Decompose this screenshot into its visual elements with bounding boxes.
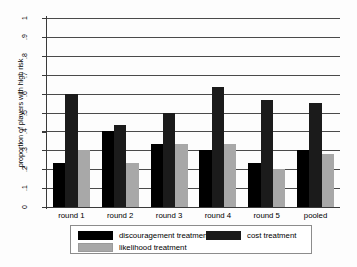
- bar-group: [53, 18, 90, 207]
- legend-swatch-icon: [78, 231, 113, 240]
- chart-legend: discouragement treatmentcost treatmentli…: [70, 225, 312, 254]
- gridline: [47, 188, 340, 189]
- x-tick-label: round 3: [145, 210, 194, 221]
- bar-group: [151, 18, 188, 207]
- gridline: [47, 94, 340, 95]
- legend-label: discouragement treatment: [119, 230, 210, 241]
- chart-figure: proportion of players with high risk 0.1…: [0, 0, 357, 267]
- bar-group: [102, 18, 139, 207]
- y-tick-label: .4: [21, 121, 29, 141]
- bar: [261, 100, 273, 207]
- legend-label: likelihood treatment: [119, 242, 187, 253]
- legend-swatch-icon: [78, 243, 113, 252]
- bar: [114, 125, 126, 207]
- bar-group: [248, 18, 285, 207]
- gridline: [47, 169, 340, 170]
- bar: [273, 169, 285, 207]
- bar: [175, 144, 187, 207]
- gridline: [47, 37, 340, 38]
- y-tick-label: .7: [21, 65, 29, 85]
- y-tick-label: .9: [21, 27, 29, 47]
- y-tick-label: .1: [21, 178, 29, 198]
- bar: [102, 131, 114, 207]
- x-tick-label: round 1: [47, 210, 96, 221]
- gridline: [47, 56, 340, 57]
- x-tick-label: round 2: [96, 210, 145, 221]
- gridline: [47, 75, 340, 76]
- bar: [65, 94, 77, 207]
- bar-group: [297, 18, 334, 207]
- y-tick-mark: [42, 37, 47, 38]
- x-tick-label: round 5: [242, 210, 291, 221]
- x-tick-label: pooled: [291, 210, 340, 221]
- y-tick-label: 1: [21, 8, 29, 28]
- bar-group: [199, 18, 236, 207]
- y-tick-mark: [42, 56, 47, 57]
- y-tick-mark: [42, 75, 47, 76]
- y-tick-label: .3: [21, 140, 29, 160]
- bar: [248, 163, 260, 207]
- plot-area: [47, 18, 340, 207]
- gridline: [47, 131, 340, 132]
- bar: [322, 154, 334, 207]
- y-tick-mark: [42, 113, 47, 114]
- x-axis-line: [46, 207, 340, 208]
- y-tick-label: .6: [21, 84, 29, 104]
- y-tick-mark: [42, 150, 47, 151]
- y-tick-label: 0: [21, 197, 29, 217]
- y-tick-mark: [42, 18, 47, 19]
- bar: [78, 150, 90, 207]
- gridline: [47, 150, 340, 151]
- legend-label: cost treatment: [247, 230, 296, 241]
- bar: [212, 87, 224, 207]
- x-tick-label: round 4: [194, 210, 243, 221]
- bar: [224, 144, 236, 207]
- bar: [151, 144, 163, 207]
- bar: [163, 113, 175, 208]
- legend-swatch-icon: [206, 231, 241, 240]
- y-tick-label: .5: [21, 103, 29, 123]
- y-tick-mark: [42, 169, 47, 170]
- y-tick-mark: [42, 94, 47, 95]
- y-tick-label: .8: [21, 46, 29, 66]
- y-tick-label: .2: [21, 159, 29, 179]
- bar: [199, 150, 211, 207]
- bar: [126, 163, 138, 207]
- bar: [309, 103, 321, 207]
- bar: [53, 163, 65, 207]
- gridline: [47, 113, 340, 114]
- bar: [297, 150, 309, 207]
- gridline: [47, 18, 340, 19]
- y-tick-mark: [42, 188, 47, 189]
- y-tick-mark: [42, 131, 47, 132]
